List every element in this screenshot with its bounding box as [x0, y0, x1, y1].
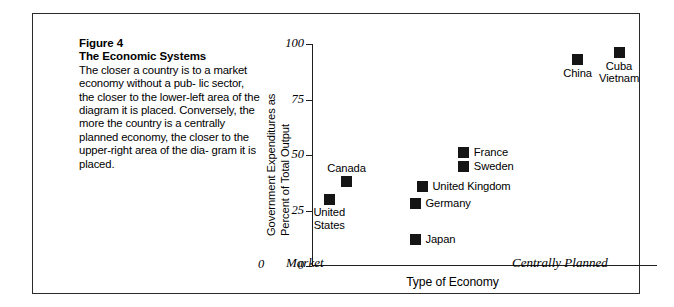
data-point-label: CubaVietnam [559, 60, 674, 85]
data-point-marker[interactable] [410, 234, 421, 245]
data-point-label: France [474, 146, 508, 159]
data-point-label: Germany [426, 197, 471, 210]
data-point-label: Japan [426, 233, 456, 246]
scatter-plot: 0255075100 UnitedStatesCanadaJapanGerman… [312, 44, 657, 266]
data-point-label-line: United Kingdom [432, 180, 510, 193]
x-axis-right-end-label: Centrally Planned [512, 255, 608, 271]
data-point-label: Canada [287, 162, 407, 175]
caption-line-6: the country is a centrally [107, 117, 225, 129]
data-point-label-line: France [474, 146, 508, 159]
figure-number: Figure 4 [79, 37, 261, 50]
data-point-label-line: Japan [426, 233, 456, 246]
y-axis-line [312, 44, 313, 266]
caption-line-7: planned economy, the closer to [79, 131, 231, 143]
data-point-label-line: Sweden [474, 160, 514, 173]
data-point-label-line: States [269, 219, 389, 232]
data-point-label-line: Germany [426, 197, 471, 210]
figure-title: The Economic Systems [79, 50, 261, 63]
data-point-marker[interactable] [417, 181, 428, 192]
x-axis-zero-label: 0 [258, 257, 264, 272]
x-axis-left-end-label: Market [286, 255, 324, 271]
y-tick-mark [306, 44, 312, 45]
data-point-label-line: Vietnam [559, 72, 674, 85]
data-point-label-line: United [269, 206, 389, 219]
data-point-label-line: Canada [287, 162, 407, 175]
y-tick-label: 50 [292, 147, 305, 162]
data-point-marker[interactable] [614, 47, 625, 58]
y-tick-label: 75 [292, 92, 305, 107]
data-point-label: Sweden [474, 160, 514, 173]
y-tick-label: 100 [285, 36, 304, 51]
data-point-label-line: Cuba [559, 60, 674, 73]
figure-caption-text: The closer a country is to a market econ… [79, 64, 261, 171]
y-tick-mark [306, 100, 312, 101]
data-point-label: United Kingdom [432, 180, 510, 193]
data-point-marker[interactable] [410, 198, 421, 209]
x-axis-title: Type of Economy [280, 275, 625, 289]
data-point-label: UnitedStates [269, 206, 389, 231]
figure-caption-block: Figure 4 The Economic Systems The closer… [79, 37, 261, 171]
data-point-marker[interactable] [458, 147, 469, 158]
data-point-marker[interactable] [341, 176, 352, 187]
data-point-marker[interactable] [324, 194, 335, 205]
data-point-marker[interactable] [458, 161, 469, 172]
y-tick-mark [306, 155, 312, 156]
caption-line-1: The closer a country is to a [79, 64, 210, 76]
figure-frame: Figure 4 The Economic Systems The closer… [32, 13, 640, 294]
